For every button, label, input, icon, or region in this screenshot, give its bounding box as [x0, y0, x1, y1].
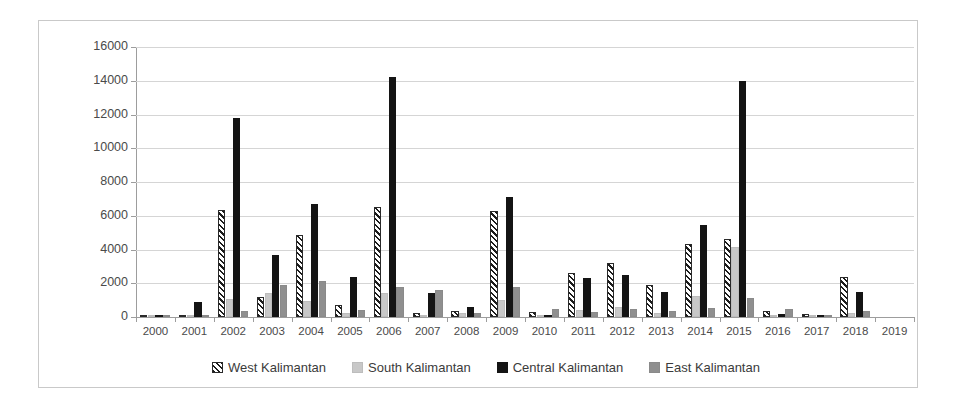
gridline — [136, 115, 914, 116]
x-axis-tick-mark — [642, 317, 643, 322]
bar-west-2014 — [685, 244, 692, 317]
bar-west-2015 — [724, 239, 731, 317]
x-axis-tick-label-2014: 2014 — [681, 325, 720, 337]
bar-central-2013 — [661, 292, 668, 317]
x-axis-tick-mark — [603, 317, 604, 322]
bar-central-2000 — [155, 315, 162, 317]
y-axis-tick-label: 2000 — [68, 275, 128, 289]
y-axis-tick-label: 6000 — [68, 208, 128, 222]
bar-south-2018 — [848, 313, 855, 317]
x-axis-tick-mark — [369, 317, 370, 322]
bar-south-2016 — [770, 315, 777, 317]
bar-central-2004 — [311, 204, 318, 317]
y-axis-tick-label: 10000 — [68, 140, 128, 154]
x-axis-tick-mark — [564, 317, 565, 322]
bar-south-2001 — [187, 315, 194, 317]
legend-item-central[interactable]: Central Kalimantan — [497, 360, 624, 375]
bar-south-2006 — [381, 293, 388, 317]
bar-south-2009 — [498, 300, 505, 317]
x-axis-tick-label-2008: 2008 — [447, 325, 486, 337]
x-axis-tick-label-2019: 2019 — [875, 325, 914, 337]
bar-east-2003 — [280, 285, 287, 317]
bar-south-2017 — [809, 315, 816, 317]
bar-west-2017 — [802, 314, 809, 317]
x-axis-tick-mark — [836, 317, 837, 322]
x-axis-tick-label-2015: 2015 — [720, 325, 759, 337]
bar-west-2008 — [451, 311, 458, 317]
bar-south-2012 — [615, 307, 622, 317]
bar-south-2014 — [692, 296, 699, 317]
x-axis-tick-mark — [331, 317, 332, 322]
x-axis-tick-mark — [914, 317, 915, 322]
bar-south-2015 — [731, 247, 738, 317]
bar-east-2001 — [202, 315, 209, 317]
x-axis-tick-mark — [292, 317, 293, 322]
bar-east-2000 — [163, 315, 170, 317]
bar-west-2000 — [140, 315, 147, 317]
bar-west-2005 — [335, 305, 342, 317]
bar-east-2007 — [435, 290, 442, 317]
bar-south-2003 — [265, 293, 272, 317]
bar-central-2018 — [856, 292, 863, 317]
bar-central-2002 — [233, 118, 240, 317]
bar-south-2013 — [654, 313, 661, 317]
x-axis-tick-label-2007: 2007 — [408, 325, 447, 337]
bar-east-2006 — [396, 287, 403, 317]
legend-item-east[interactable]: East Kalimantan — [649, 360, 760, 375]
bar-south-2008 — [459, 313, 466, 317]
legend-item-west[interactable]: West Kalimantan — [212, 360, 326, 375]
x-axis-tick-mark — [253, 317, 254, 322]
x-axis-tick-mark — [875, 317, 876, 322]
bar-central-2012 — [622, 275, 629, 317]
bar-central-2006 — [389, 77, 396, 317]
bar-east-2010 — [552, 309, 559, 317]
bar-west-2001 — [179, 315, 186, 317]
bar-west-2007 — [413, 313, 420, 317]
x-axis-tick-mark — [214, 317, 215, 322]
x-axis-tick-mark — [136, 317, 137, 322]
x-axis-tick-mark — [486, 317, 487, 322]
legend-label: West Kalimantan — [228, 360, 326, 375]
x-axis-tick-mark — [720, 317, 721, 322]
x-axis-tick-label-2018: 2018 — [836, 325, 875, 337]
x-axis-tick-label-2004: 2004 — [292, 325, 331, 337]
bar-central-2005 — [350, 277, 357, 318]
bar-east-2015 — [747, 298, 754, 317]
bar-west-2004 — [296, 235, 303, 317]
bar-west-2011 — [568, 273, 575, 317]
y-axis-tick-label: 4000 — [68, 242, 128, 256]
gridline — [136, 250, 914, 251]
legend-label: South Kalimantan — [368, 360, 471, 375]
x-axis-tick-mark — [525, 317, 526, 322]
x-axis-tick-label-2001: 2001 — [175, 325, 214, 337]
gridline — [136, 216, 914, 217]
bar-south-2005 — [342, 313, 349, 317]
gridline — [136, 182, 914, 183]
bar-central-2016 — [778, 314, 785, 317]
bar-east-2009 — [513, 287, 520, 317]
bar-central-2010 — [544, 315, 551, 317]
y-axis-tick-label: 14000 — [68, 73, 128, 87]
bar-south-2002 — [226, 299, 233, 317]
legend-swatch-east-icon — [649, 362, 660, 373]
y-axis-tick-label: 8000 — [68, 174, 128, 188]
bar-east-2008 — [474, 313, 481, 317]
bar-east-2018 — [863, 311, 870, 317]
bar-west-2006 — [374, 207, 381, 317]
bar-central-2008 — [467, 307, 474, 317]
bar-central-2009 — [506, 197, 513, 317]
bar-central-2001 — [194, 302, 201, 317]
bar-central-2017 — [817, 315, 824, 317]
bar-south-2000 — [148, 315, 155, 317]
x-axis-tick-label-2006: 2006 — [369, 325, 408, 337]
x-axis-tick-label-2016: 2016 — [758, 325, 797, 337]
y-axis-tick-label: 0 — [68, 309, 128, 323]
bar-south-2011 — [576, 310, 583, 317]
gridline — [136, 148, 914, 149]
legend-item-south[interactable]: South Kalimantan — [352, 360, 471, 375]
x-axis-tick-label-2003: 2003 — [253, 325, 292, 337]
gridline — [136, 81, 914, 82]
bar-central-2007 — [428, 293, 435, 317]
bar-south-2004 — [303, 301, 310, 317]
legend-label: Central Kalimantan — [513, 360, 624, 375]
